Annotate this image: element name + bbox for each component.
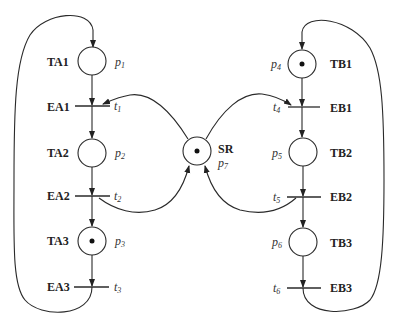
chain-b: TB1 EB1 TB2 EB2 TB3 EB3 p4 p5 p6 t4 t5 t… — [270, 20, 384, 311]
label-sr: SR — [218, 142, 234, 156]
name-p4: p4 — [270, 57, 281, 72]
label-tb3: TB3 — [330, 236, 352, 250]
place-p5 — [289, 138, 317, 166]
place-p2 — [78, 139, 106, 167]
chain-a: TA1 EA1 TA2 EA2 TA3 EA3 p1 p2 p3 t1 t2 t… — [14, 15, 125, 312]
name-p1: p1 — [114, 55, 125, 70]
label-ta2: TA2 — [47, 146, 69, 160]
arc-t5-p7 — [205, 166, 296, 212]
name-t2: t2 — [114, 189, 121, 204]
name-t6: t6 — [273, 281, 280, 296]
name-t5: t5 — [273, 190, 280, 205]
label-eb3: EB3 — [330, 281, 352, 295]
token-p4 — [300, 62, 305, 67]
label-tb1: TB1 — [330, 57, 352, 71]
label-eb1: EB1 — [330, 101, 352, 115]
label-eb2: EB2 — [330, 190, 352, 204]
shared-resource: SR p7 — [99, 94, 296, 213]
arc-p7-t4 — [206, 94, 291, 139]
arc-t2-p7 — [99, 166, 189, 212]
label-ea2: EA2 — [47, 189, 70, 203]
name-p3: p3 — [114, 234, 125, 249]
place-p6 — [289, 228, 317, 256]
name-p7: p7 — [217, 156, 229, 171]
petri-net-diagram: TA1 EA1 TA2 EA2 TA3 EA3 p1 p2 p3 t1 t2 t… — [0, 0, 395, 323]
label-ta1: TA1 — [47, 55, 69, 69]
token-p3 — [90, 239, 95, 244]
name-t4: t4 — [273, 100, 280, 115]
name-p5: p5 — [271, 146, 282, 161]
name-t1: t1 — [114, 99, 121, 114]
place-p1 — [78, 47, 106, 75]
name-p6: p6 — [271, 235, 282, 250]
name-t3: t3 — [114, 280, 121, 295]
label-tb2: TB2 — [330, 146, 352, 160]
token-p7 — [195, 149, 200, 154]
label-ea1: EA1 — [47, 100, 70, 114]
label-ea3: EA3 — [47, 280, 70, 294]
label-ta3: TA3 — [47, 234, 69, 248]
name-p2: p2 — [114, 146, 125, 161]
